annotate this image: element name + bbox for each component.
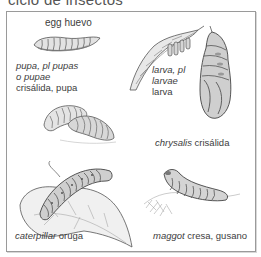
- egg-label-es: huevo: [64, 17, 91, 28]
- pupa-label-en-line1: pupa, pl pupas: [16, 60, 78, 71]
- maggot-label: maggot cresa, gusano: [153, 230, 247, 241]
- caterpillar-label: caterpillar oruga: [15, 230, 83, 241]
- chrysalis-label: chrysalis crisálida: [155, 137, 229, 148]
- caterpillar-label-en: caterpillar: [15, 230, 56, 241]
- chrysalis-label-en: chrysalis: [155, 137, 192, 148]
- chrysalis-label-es: crisálida: [195, 137, 230, 148]
- larva-leaf-illustration: [126, 24, 206, 94]
- pupa-label: pupa, pl pupas o pupae crisálida, pupa: [16, 60, 78, 93]
- pupa-illustration: [40, 100, 120, 145]
- egg-illustration: [30, 32, 102, 54]
- maggot-illustration: [142, 164, 242, 219]
- chrysalis-illustration: [196, 24, 238, 124]
- caterpillar-label-es: oruga: [59, 230, 83, 241]
- pupa-label-en-line2: o pupae: [16, 71, 50, 82]
- pupa-label-es: crisálida, pupa: [16, 82, 78, 93]
- egg-label: egg huevo: [45, 17, 92, 28]
- page-title: ciclo de insectos: [8, 0, 123, 8]
- maggot-label-es: cresa, gusano: [187, 230, 247, 241]
- egg-label-en: egg: [45, 17, 62, 28]
- maggot-label-en: maggot: [153, 230, 185, 241]
